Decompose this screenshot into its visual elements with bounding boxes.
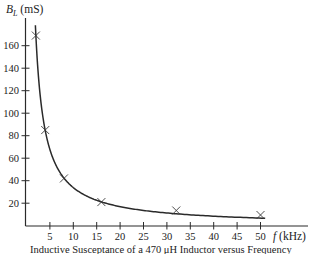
x-tick-label: 5: [47, 231, 52, 242]
y-tick-label: 160: [3, 40, 19, 51]
x-tick-label: 20: [115, 231, 126, 242]
y-tick-label: 80: [9, 130, 20, 141]
y-tick-label: 120: [3, 85, 19, 96]
y-tick-label: 20: [9, 198, 20, 209]
y-tick-label: 40: [9, 175, 20, 186]
susceptance-curve: [35, 25, 265, 218]
x-axis-label-unit: (kHz): [276, 230, 306, 243]
y-axis-label-unit: (mS): [17, 3, 43, 16]
x-axis-label: f (kHz): [273, 230, 306, 243]
y-tick-label: 140: [3, 63, 19, 74]
x-tick-label: 15: [91, 231, 102, 242]
y-tick-label: 60: [9, 153, 20, 164]
x-marker: [60, 174, 68, 182]
x-tick-label: 40: [208, 231, 219, 242]
data-markers: [32, 32, 265, 219]
y-axis-label: BL (mS): [6, 3, 44, 18]
x-tick-label: 50: [255, 231, 266, 242]
x-tick-label: 10: [68, 231, 79, 242]
x-tick-label: 30: [162, 231, 173, 242]
susceptance-chart: 20406080100120140160 5101520253035404550…: [0, 0, 308, 254]
x-ticks: 5101520253035404550: [47, 222, 265, 242]
x-tick-label: 35: [185, 231, 196, 242]
y-axis-label-symbol: B: [6, 3, 13, 15]
x-tick-label: 25: [138, 231, 149, 242]
x-tick-label: 45: [232, 231, 243, 242]
y-tick-label: 100: [3, 108, 19, 119]
axes: [26, 18, 309, 226]
chart-caption: Inductive Susceptance of a 470 μH Induct…: [30, 244, 292, 254]
